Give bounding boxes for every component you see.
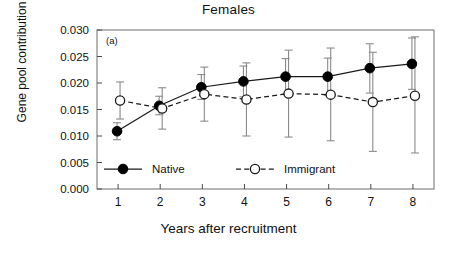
data-point-native-year6[interactable]	[323, 72, 333, 82]
data-point-native-year7[interactable]	[365, 63, 375, 73]
x-tick-label: 7	[367, 195, 374, 209]
x-tick-label: 1	[115, 195, 122, 209]
y-tick-label: 0.025	[60, 51, 89, 63]
y-tick-label: 0.005	[60, 157, 89, 169]
data-point-immigrant-year5[interactable]	[284, 89, 293, 98]
data-point-immigrant-year8[interactable]	[410, 91, 419, 100]
data-point-immigrant-year4[interactable]	[242, 95, 251, 104]
data-point-immigrant-year3[interactable]	[200, 90, 209, 99]
data-layer	[112, 37, 419, 153]
legend-label: Immigrant	[284, 163, 336, 175]
chart-canvas: 0.0000.0050.0100.0150.0200.0250.03012345…	[0, 0, 457, 255]
y-tick-label: 0.020	[60, 77, 89, 89]
series-line-native	[117, 64, 412, 131]
y-tick-label: 0.010	[60, 130, 89, 142]
y-tick-label: 0.030	[60, 24, 89, 36]
data-point-immigrant-year2[interactable]	[158, 104, 167, 113]
data-point-immigrant-year6[interactable]	[326, 90, 335, 99]
axes-layer: 0.0000.0050.0100.0150.0200.0250.03012345…	[60, 24, 434, 209]
x-tick-label: 5	[283, 195, 290, 209]
data-point-native-year8[interactable]	[407, 59, 417, 69]
panel-label: (a)	[106, 35, 118, 46]
legend-marker	[250, 164, 259, 173]
legend-item-immigrant[interactable]: Immigrant	[236, 163, 336, 175]
y-tick-label: 0.000	[60, 183, 89, 195]
x-tick-label: 6	[325, 195, 332, 209]
x-tick-label: 2	[157, 195, 164, 209]
data-point-native-year4[interactable]	[239, 77, 249, 87]
data-point-immigrant-year1[interactable]	[115, 96, 124, 105]
figure-panel: Females Gene pool contribution Years aft…	[0, 0, 457, 255]
x-tick-label: 3	[199, 195, 206, 209]
chart-legend: NativeImmigrant	[104, 163, 336, 175]
legend-marker	[118, 164, 128, 174]
plot-frame	[97, 30, 434, 189]
legend-item-native[interactable]: Native	[104, 163, 185, 175]
data-point-native-year1[interactable]	[112, 126, 122, 136]
data-point-immigrant-year7[interactable]	[368, 97, 377, 106]
y-tick-label: 0.015	[60, 104, 89, 116]
data-point-native-year5[interactable]	[281, 72, 291, 82]
x-tick-label: 4	[241, 195, 248, 209]
legend-label: Native	[152, 163, 185, 175]
x-tick-label: 8	[410, 195, 417, 209]
